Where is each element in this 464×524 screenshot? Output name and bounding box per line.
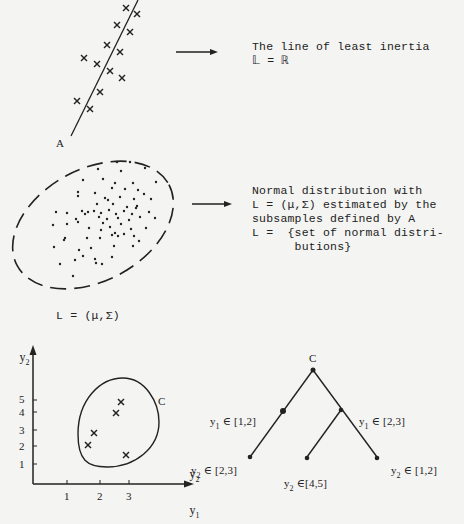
cluster-label-c: C (158, 395, 166, 408)
caption-normal-line-1: Normal distribution with (252, 184, 422, 197)
y-tick-2: 2 (19, 440, 25, 453)
tree-leaf-1-label: y2 ∈ [2,3] (185, 451, 237, 478)
formula-mu-sigma: L = (μ,Σ) (56, 309, 120, 322)
tree-left-split-label: y1 ∈ [1,2] (204, 402, 256, 429)
y-tick-4: 4 (19, 406, 25, 419)
tree-leaf-3-label: y2 ∈ [1,2] (385, 451, 437, 478)
dashed-ellipse (0, 135, 195, 315)
tree-root-label: C (309, 352, 317, 365)
arrow-2 (192, 201, 232, 207)
y-tick-5: 5 (19, 393, 25, 406)
x-axis-label: y1 (183, 491, 200, 518)
arrow-1 (176, 49, 218, 55)
figure-drawing (0, 0, 464, 524)
caption-normal-line-5: butions} (252, 240, 351, 253)
cluster-boundary-c (78, 378, 159, 467)
least-inertia-line (71, 0, 138, 136)
point-label-a: A (56, 137, 64, 150)
y-tick-3: 3 (19, 424, 25, 437)
tree-right-split-label: y1 ∈ [2,3] (353, 402, 405, 429)
caption-normal-line-3: subsamples defined by A (252, 212, 415, 225)
x-tick-2: 2 (97, 490, 103, 503)
caption-normal-line-4: L = {set of normal distri- (252, 226, 444, 239)
x-tick-3: 3 (126, 490, 132, 503)
x-tick-1: 1 (64, 490, 70, 503)
cluster-points (85, 399, 129, 458)
cross-markers (74, 5, 140, 112)
caption-normal-line-2: L = (μ,Σ) estimated by the (252, 198, 437, 211)
y-axis-label: y2 (13, 338, 30, 365)
caption-least-inertia: The line of least inertia (252, 40, 430, 53)
axes (30, 345, 195, 488)
caption-least-inertia-formula: 𝕃 = ℝ (252, 54, 289, 67)
tree-leaf-2-label: y2 ∈[4,5] (278, 464, 327, 491)
y-tick-1: 1 (19, 458, 25, 471)
